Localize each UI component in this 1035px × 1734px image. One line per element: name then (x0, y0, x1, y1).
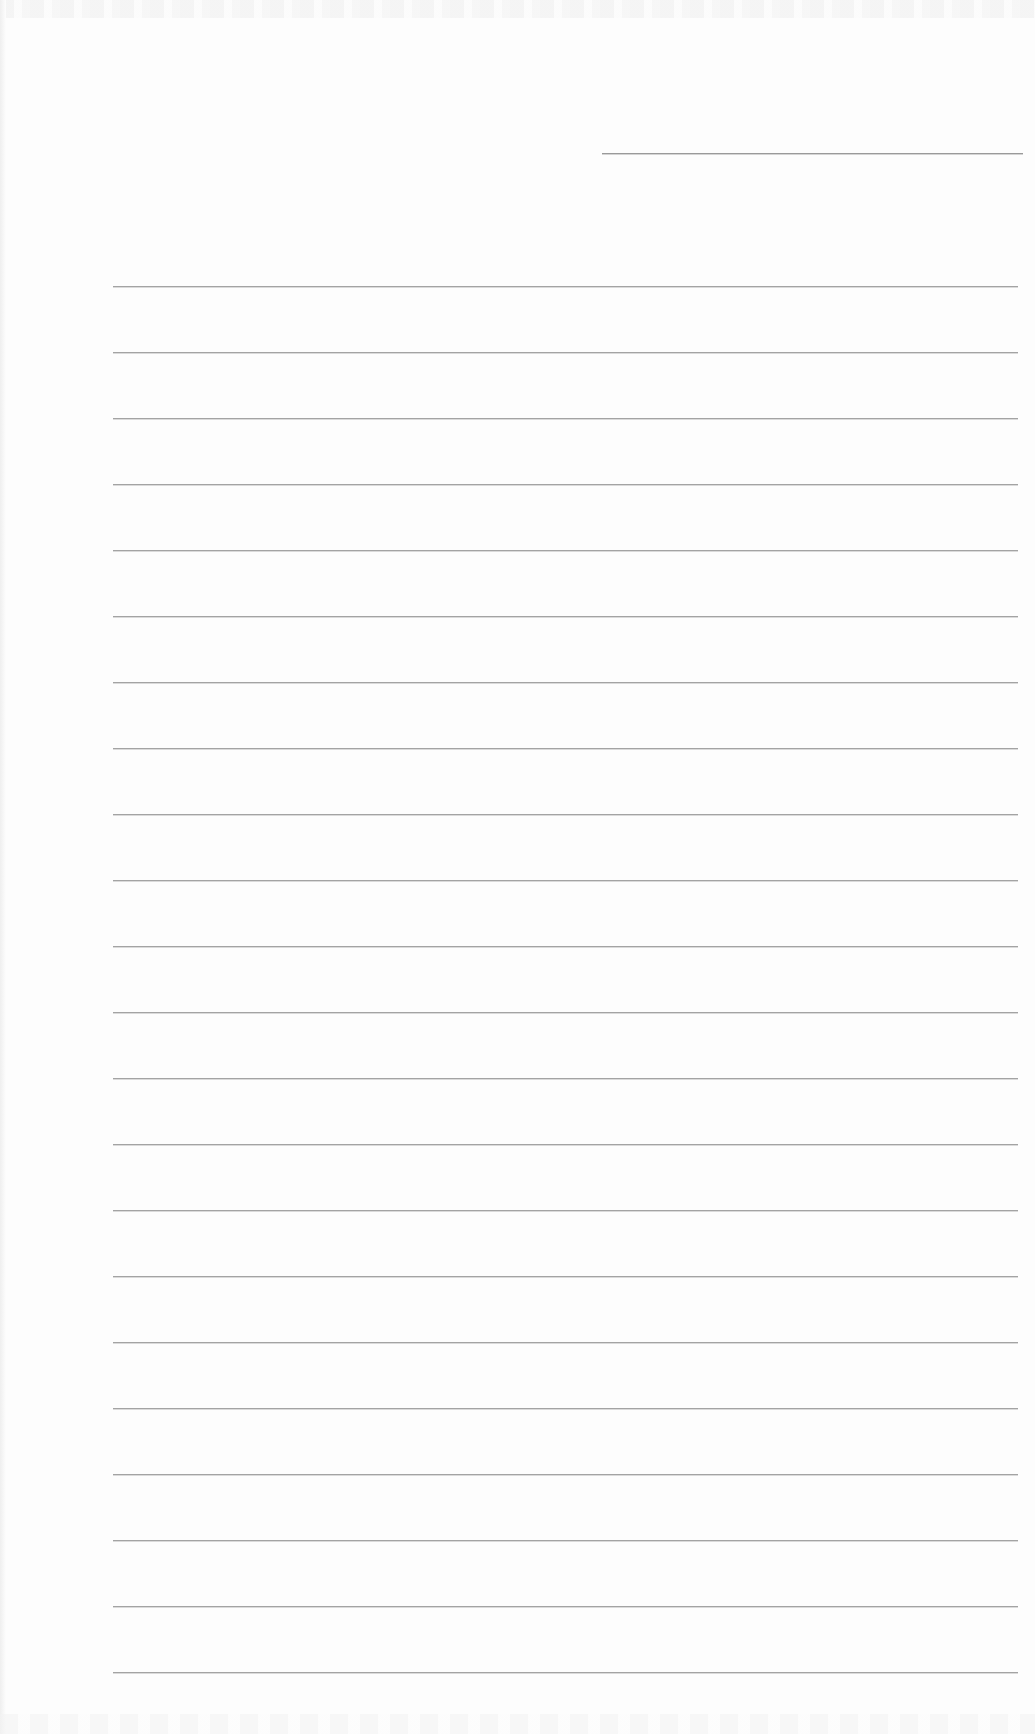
ruled-line (113, 1210, 1018, 1212)
ruled-line (113, 1474, 1018, 1476)
ruled-line (113, 1540, 1018, 1542)
ruled-line (113, 1606, 1018, 1608)
ruled-line (113, 550, 1018, 552)
scan-bleed-top (0, 0, 1035, 18)
ruled-line (113, 1078, 1018, 1080)
scan-bleed-bottom (0, 1714, 1035, 1734)
ruled-line (113, 484, 1018, 486)
ruled-line (113, 1012, 1018, 1014)
ruled-line (113, 352, 1018, 354)
ruled-line (113, 880, 1018, 882)
ruled-line (113, 1144, 1018, 1146)
ruled-line (113, 418, 1018, 420)
scan-left-edge (0, 0, 6, 1734)
ruled-line (113, 1408, 1018, 1410)
ruled-line (113, 748, 1018, 750)
ruled-line (113, 1276, 1018, 1278)
ruled-line (113, 616, 1018, 618)
ruled-line (113, 946, 1018, 948)
header-line (602, 153, 1023, 155)
ruled-line (113, 682, 1018, 684)
ruled-line (113, 1342, 1018, 1344)
ruled-line (113, 1672, 1018, 1674)
ruled-line (113, 814, 1018, 816)
ruled-line (113, 286, 1018, 288)
